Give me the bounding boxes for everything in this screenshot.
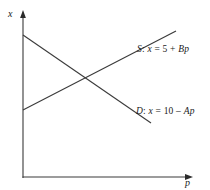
x-axis-label: x (8, 9, 12, 19)
x-axis-arrowhead (20, 10, 26, 18)
supply-demand-figure: x p S: x = 5 + Bp D: x = 10 – Ap (0, 0, 210, 190)
demand-label-lhs: x (148, 106, 152, 116)
demand-curve (23, 35, 151, 123)
demand-curve-label: D: x = 10 – Ap (136, 107, 195, 117)
supply-label-operator: + (170, 44, 176, 54)
supply-label-variable: p (184, 44, 189, 54)
supply-label-equals: = (154, 44, 160, 54)
plot-area (0, 0, 210, 190)
demand-label-operator: – (176, 106, 181, 116)
supply-label-lhs: x (147, 44, 151, 54)
demand-label-constant: 10 (164, 106, 174, 116)
demand-label-prefix: D (136, 106, 143, 116)
demand-label-equals: = (155, 106, 161, 116)
demand-label-colon: : (143, 106, 146, 116)
p-axis-label: p (185, 178, 190, 188)
supply-label-constant: 5 (163, 44, 168, 54)
supply-curve (23, 31, 176, 110)
supply-curve-label: S: x = 5 + Bp (137, 45, 189, 55)
demand-label-variable: p (190, 106, 195, 116)
supply-label-colon: : (142, 44, 145, 54)
